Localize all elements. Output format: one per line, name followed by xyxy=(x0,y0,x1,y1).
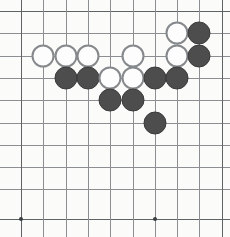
stone-black-c5r4[interactable] xyxy=(121,89,144,112)
stone-black-c3r3[interactable] xyxy=(76,66,99,89)
stone-black-c4r4[interactable] xyxy=(99,89,122,112)
stone-black-c7r3[interactable] xyxy=(166,66,189,89)
stone-white-c1r2[interactable] xyxy=(32,44,55,67)
stone-white-c2r2[interactable] xyxy=(54,44,77,67)
stone-black-c8r2[interactable] xyxy=(188,44,211,67)
stone-black-c8r1[interactable] xyxy=(188,22,211,45)
stone-white-c7r2[interactable] xyxy=(166,44,189,67)
stone-black-c2r3[interactable] xyxy=(54,66,77,89)
go-board-diagram xyxy=(0,0,230,237)
stone-white-c5r3[interactable] xyxy=(121,66,144,89)
stone-white-c4r3[interactable] xyxy=(99,66,122,89)
stone-white-c5r2[interactable] xyxy=(121,44,144,67)
stone-black-c6r3[interactable] xyxy=(143,66,166,89)
stone-layer xyxy=(0,0,230,237)
stone-black-c6r5[interactable] xyxy=(143,111,166,134)
stone-white-c7r1[interactable] xyxy=(166,22,189,45)
stone-white-c3r2[interactable] xyxy=(76,44,99,67)
